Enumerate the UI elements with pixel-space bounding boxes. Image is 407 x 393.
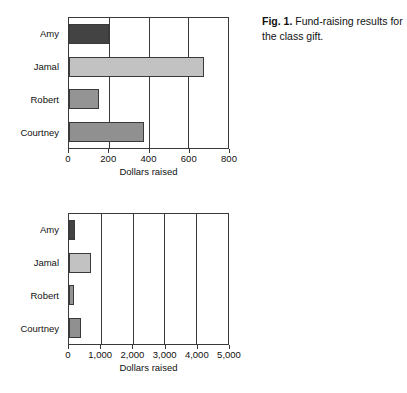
bar-courtney-2 [69, 318, 81, 338]
plot-area-2 [68, 213, 229, 345]
bar-series-2 [69, 214, 228, 344]
plot-area-1 [68, 17, 229, 149]
bar-row-robert-2 [69, 279, 228, 312]
x-ticklabel-600: 600 [181, 153, 197, 164]
y-axis-label-jamal: Jamal [0, 50, 64, 83]
y-axis-label-courtney: Courtney [0, 116, 64, 149]
x-ticklabel-0: 0 [65, 153, 70, 164]
x-ticklabel-4000: 4,000 [185, 349, 209, 360]
x-ticklabel-3000: 3,000 [153, 349, 177, 360]
x-axis-title-1: Dollars raised [68, 166, 229, 177]
bar-row-amy [69, 18, 228, 51]
bar-jamal [69, 57, 204, 77]
y-axis-category-labels-2: Amy Jamal Robert Courtney [0, 213, 64, 345]
figure-2: Amy Jamal Robert Courtney [0, 196, 407, 393]
bar-row-amy-2 [69, 214, 228, 247]
bar-row-robert [69, 83, 228, 116]
bar-amy-2 [69, 220, 75, 240]
figure-1-caption: Fig. 1. Fund-raising results for the cla… [262, 14, 404, 44]
bar-amy [69, 24, 109, 44]
y-axis-category-labels-1: Amy Jamal Robert Courtney [0, 17, 64, 149]
bar-robert-2 [69, 285, 74, 305]
bar-jamal-2 [69, 253, 91, 273]
y-axis-label-amy: Amy [0, 17, 64, 50]
x-ticklabel-200: 200 [100, 153, 116, 164]
x-ticklabel-1000: 1,000 [88, 349, 112, 360]
bar-chart-2: Amy Jamal Robert Courtney [0, 196, 250, 392]
y-axis-label-jamal-2: Jamal [0, 246, 64, 279]
x-ticklabel-5000: 5,000 [217, 349, 241, 360]
figure-1: Amy Jamal Robert Courtney [0, 0, 407, 196]
x-ticklabel-0-2: 0 [65, 349, 70, 360]
bar-robert [69, 89, 99, 109]
bar-row-courtney [69, 116, 228, 149]
y-axis-label-robert: Robert [0, 83, 64, 116]
x-ticklabel-400: 400 [141, 153, 157, 164]
x-axis-title-2: Dollars raised [68, 362, 229, 373]
y-axis-label-robert-2: Robert [0, 279, 64, 312]
bar-courtney [69, 122, 144, 142]
x-ticklabel-800: 800 [221, 153, 237, 164]
bar-series-1 [69, 18, 228, 148]
bar-chart-1: Amy Jamal Robert Courtney [0, 0, 250, 196]
bar-row-jamal [69, 51, 228, 84]
bar-row-courtney-2 [69, 312, 228, 345]
figure-1-caption-label: Fig. 1. [262, 15, 292, 27]
y-axis-label-courtney-2: Courtney [0, 312, 64, 345]
bar-row-jamal-2 [69, 247, 228, 280]
x-ticklabel-2000: 2,000 [121, 349, 145, 360]
y-axis-label-amy-2: Amy [0, 213, 64, 246]
